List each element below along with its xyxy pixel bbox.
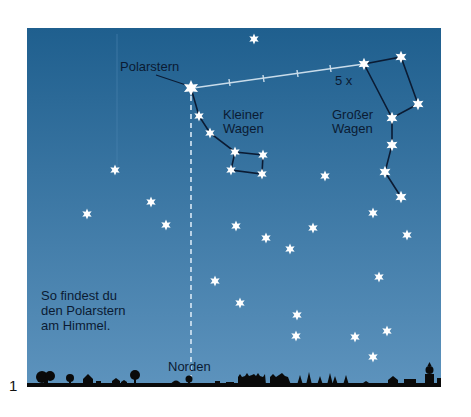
big-dipper-label-line2: Wagen: [332, 121, 373, 136]
pointer-tick: [297, 70, 298, 77]
pointer-tick: [229, 79, 230, 86]
polaris-label: Polarstern: [120, 59, 179, 74]
pointer-multiplier-label: 5 x: [335, 73, 353, 88]
pointer-tick: [330, 65, 331, 72]
caption-line2: den Polarstern: [41, 303, 126, 318]
little-dipper-label-line1: Kleiner: [223, 107, 264, 122]
polaris-finder-illustration: Polarstern 5 x Kleiner Wagen Großer Wage…: [0, 0, 471, 417]
pointer-tick: [263, 75, 264, 82]
caption-line1: So findest du: [41, 288, 117, 303]
figure-number: 1: [9, 377, 17, 394]
caption-line3: am Himmel.: [41, 318, 110, 333]
big-dipper-label-line1: Großer: [332, 107, 374, 122]
north-label: Norden: [168, 359, 211, 374]
little-dipper-label-line2: Wagen: [223, 121, 264, 136]
